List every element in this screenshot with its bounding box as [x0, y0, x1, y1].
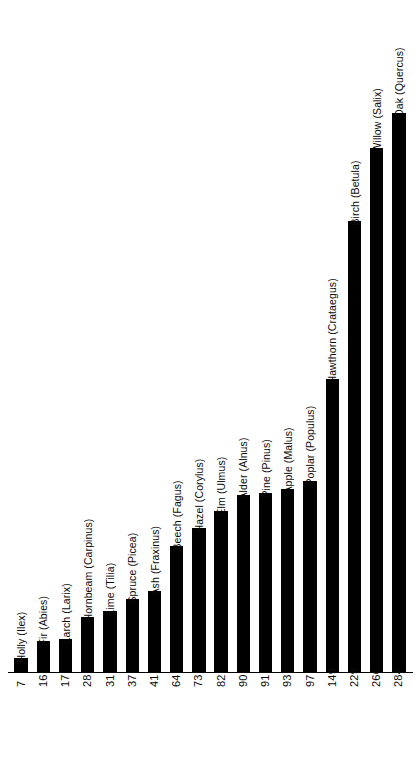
bar	[237, 495, 250, 672]
bar-value-label: 229	[349, 668, 360, 687]
bar-category-label: Alder (Alnus)	[238, 437, 249, 499]
bar-category-label: Hawthorn (Crataegus)	[327, 278, 338, 383]
bar-fill	[126, 599, 139, 672]
bar	[81, 617, 94, 672]
bar-chart: Holly (Ilex)Fir (Abies)Larch (Larix)Horn…	[0, 0, 419, 764]
bar-value-label: 284	[393, 668, 404, 687]
bar-fill	[392, 113, 405, 672]
bar-category-label: Ash (Fraxinus)	[149, 526, 160, 596]
bar-value-label: 17	[60, 674, 71, 687]
bar	[259, 493, 272, 672]
bar	[148, 591, 161, 672]
bar-fill	[281, 489, 294, 672]
bar-category-label: Lime (Tilia)	[105, 563, 116, 616]
bar	[370, 148, 383, 672]
plot-area: Holly (Ilex)Fir (Abies)Larch (Larix)Horn…	[0, 0, 419, 764]
bar-category-label: Oak (Quercus)	[393, 47, 404, 117]
bar-fill	[303, 481, 316, 672]
bar-value-label: 73	[193, 674, 204, 687]
bar	[281, 489, 294, 672]
value-axis-labels: 716172831374164738290919397149229266284	[0, 676, 419, 764]
bar-category-label: Birch (Betula)	[349, 161, 360, 226]
bar-value-label: 7	[16, 681, 27, 687]
bar-category-label: Hornbeam (Carpinus)	[82, 519, 93, 622]
bar-value-label: 28	[82, 674, 93, 687]
bar-category-label: Willow (Salix)	[371, 89, 382, 153]
bar	[214, 511, 227, 672]
bar	[392, 113, 405, 672]
bar-value-label: 31	[105, 674, 116, 687]
bar-value-label: 97	[305, 674, 316, 687]
bar-value-label: 91	[260, 674, 271, 687]
bar-category-label: Spruce (Picea)	[127, 533, 138, 604]
bar-value-label: 93	[282, 674, 293, 687]
bar-value-label: 16	[38, 674, 49, 687]
bar	[170, 546, 183, 672]
bar-category-label: Larch (Larix)	[60, 583, 71, 643]
bar	[348, 221, 361, 672]
bar-value-label: 41	[149, 674, 160, 687]
bar-fill	[259, 493, 272, 672]
bar-value-label: 90	[238, 674, 249, 687]
bar-fill	[148, 591, 161, 672]
bar-fill	[103, 611, 116, 672]
bar	[103, 611, 116, 672]
bar-fill	[59, 639, 72, 672]
bar-category-label: Pine (Pinus)	[260, 439, 271, 497]
bar-category-label: Poplar (Populus)	[305, 406, 316, 486]
bar-fill	[326, 379, 339, 672]
bar	[59, 639, 72, 672]
bar	[126, 599, 139, 672]
bar	[192, 528, 205, 672]
bar-fill	[348, 221, 361, 672]
bar-value-label: 64	[171, 674, 182, 687]
bar-value-label: 266	[371, 668, 382, 687]
bar-fill	[192, 528, 205, 672]
bar-category-label: Elm (Ulmus)	[216, 456, 227, 515]
bar-fill	[170, 546, 183, 672]
bar-value-label: 82	[216, 674, 227, 687]
bar	[303, 481, 316, 672]
bar-value-label: 149	[327, 668, 338, 687]
bar-fill	[81, 617, 94, 672]
bar-category-label: Beech (Fagus)	[171, 480, 182, 550]
bar-fill	[237, 495, 250, 672]
bar	[326, 379, 339, 672]
bar-value-label: 37	[127, 674, 138, 687]
bar-fill	[214, 511, 227, 672]
bar-category-label: Holly (Ilex)	[16, 612, 27, 663]
bar-fill	[370, 148, 383, 672]
bar-category-label: Hazel (Corylus)	[193, 459, 204, 533]
bar-category-label: Apple (Malus)	[282, 427, 293, 493]
bar-category-label: Fir (Abies)	[38, 595, 49, 645]
